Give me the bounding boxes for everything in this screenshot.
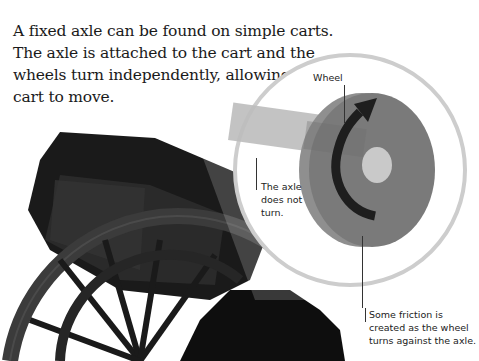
label-friction-line: turns against the axle. (369, 334, 476, 347)
label-axle-line: turn. (261, 206, 302, 219)
leader-tick-friction (365, 308, 366, 322)
cart-axle-illustration (0, 0, 479, 361)
label-friction: Some friction is created as the wheel tu… (369, 308, 476, 347)
axle-hub (362, 147, 392, 183)
label-wheel: Wheel (313, 71, 343, 84)
leader-line-friction (362, 236, 363, 308)
label-friction-line: Some friction is (369, 308, 476, 321)
leader-line-axle (256, 158, 257, 190)
label-axle: The axle does not turn. (261, 180, 302, 219)
label-axle-line: does not (261, 193, 302, 206)
leader-line-wheel (344, 85, 345, 123)
label-friction-line: created as the wheel (369, 321, 476, 334)
label-axle-line: The axle (261, 180, 302, 193)
